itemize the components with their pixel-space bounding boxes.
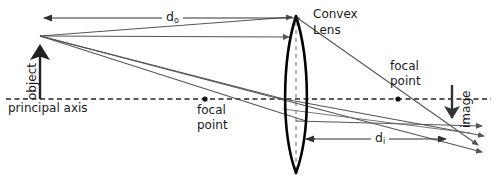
focal-point-right-dot [395,96,400,101]
do-subscript: o [174,16,179,25]
focal-point-left-dot [202,96,207,101]
object-distance-label: do [162,10,183,25]
focal-point-left-label-line1: focal [197,104,226,117]
di-subscript: i [383,137,385,146]
optics-ray-diagram: Convex Lens object image principal axis … [0,0,497,190]
focal-point-left-label-line2: point [197,119,228,132]
object-label: object [26,63,39,100]
ray-through-focal-refracted [296,121,482,126]
focal-point-right-label-line1: focal [390,60,419,73]
image-distance-label: di [371,131,389,146]
di-base: d [375,130,383,145]
do-base: d [166,9,174,24]
image-label: image [460,91,473,128]
focal-point-right-label-line2: point [390,75,421,88]
diagram-canvas [0,0,497,190]
lens-label: Lens [313,24,341,37]
ray-secondary-incident [40,36,289,37]
principal-axis-label: principal axis [8,102,88,115]
ray-lower-incident [40,36,284,99]
convex-label: Convex [313,8,358,21]
